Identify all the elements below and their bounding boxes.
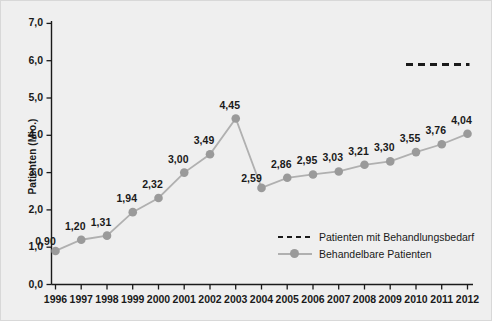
- x-tick-label: 2012: [448, 293, 488, 305]
- data-point-label: 4,45: [210, 99, 250, 111]
- y-tick-label: 3,0: [9, 166, 43, 178]
- data-point-marker[interactable]: [180, 168, 189, 177]
- y-tick-label: 4,0: [9, 128, 43, 140]
- line-marker-icon: [277, 247, 313, 261]
- y-tick-label: 5,0: [9, 91, 43, 103]
- x-axis-ticks: [56, 285, 468, 290]
- data-point-marker[interactable]: [51, 247, 60, 256]
- data-point-marker[interactable]: [309, 170, 318, 179]
- data-point-marker[interactable]: [386, 157, 395, 166]
- data-point-label: 1,94: [107, 192, 147, 204]
- data-point-marker[interactable]: [231, 114, 240, 123]
- data-point-marker[interactable]: [103, 231, 112, 240]
- data-point-label: 3,49: [184, 134, 224, 146]
- data-point-label: 3,76: [416, 124, 456, 136]
- data-point-label: 4,04: [442, 114, 482, 126]
- chart-container: Patienten (Mio.) 0,01,02,03,04,05,06,07,…: [0, 0, 492, 321]
- data-point-marker[interactable]: [283, 174, 292, 183]
- legend-label-behandelbare: Behandelbare Patienten: [319, 248, 432, 260]
- dashed-line-icon: [277, 230, 313, 244]
- data-point-marker[interactable]: [360, 160, 369, 169]
- data-point-marker[interactable]: [154, 194, 163, 203]
- data-point-marker[interactable]: [257, 184, 266, 193]
- y-tick-label: 7,0: [9, 16, 43, 28]
- data-point-marker[interactable]: [128, 208, 137, 217]
- y-tick-label: 6,0: [9, 54, 43, 66]
- data-point-marker[interactable]: [77, 235, 86, 244]
- legend-label-behandlungsbedarf: Patienten mit Behandlungsbedarf: [319, 231, 474, 243]
- data-point-label: 1,31: [81, 216, 121, 228]
- data-point-label: 2,59: [232, 172, 272, 184]
- chart-plot-area: [1, 1, 492, 321]
- data-point-marker[interactable]: [463, 130, 472, 139]
- data-point-label: 2,32: [133, 178, 173, 190]
- data-point-label: 0,90: [26, 235, 66, 247]
- y-tick-label: 2,0: [9, 203, 43, 215]
- data-point-marker[interactable]: [334, 167, 343, 176]
- y-tick-label: 0,0: [9, 278, 43, 290]
- data-point-marker[interactable]: [437, 140, 446, 149]
- chart-legend: Patienten mit Behandlungsbedarf Behandel…: [277, 229, 474, 263]
- y-axis-title: Patienten (Mio.): [27, 97, 38, 217]
- data-point-label: 3,00: [158, 153, 198, 165]
- legend-item-behandlungsbedarf: Patienten mit Behandlungsbedarf: [277, 229, 474, 244]
- data-point-marker[interactable]: [412, 148, 421, 157]
- data-point-marker[interactable]: [206, 150, 215, 159]
- legend-item-behandelbare: Behandelbare Patienten: [277, 246, 474, 261]
